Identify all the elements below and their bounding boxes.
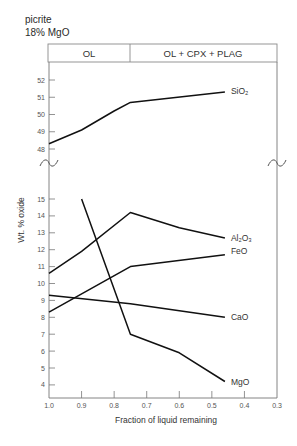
y-lower-tick-label: 6 xyxy=(41,348,45,355)
x-tick-label: 0.5 xyxy=(207,402,217,409)
phase-field-ol: OL xyxy=(83,48,96,59)
series-line-sio2 xyxy=(49,92,225,144)
y-axis-title: Wt. % oxide xyxy=(16,197,26,243)
y-ticks-lower: 456789101112131415 xyxy=(37,196,55,389)
y-lower-tick-label: 8 xyxy=(41,314,45,321)
x-tick-label: 0.4 xyxy=(240,402,250,409)
series-labels: SiO₂Al₂O₃FeOCaOMgO xyxy=(231,86,252,386)
series-label-al2o3: Al₂O₃ xyxy=(231,233,252,243)
y-upper-tick-label: 49 xyxy=(37,128,45,135)
x-axis-title: Fraction of liquid remaining xyxy=(115,415,217,425)
y-lower-tick-label: 4 xyxy=(41,381,45,388)
series-label-cao: CaO xyxy=(231,312,249,322)
series-label-sio2: SiO₂ xyxy=(231,86,248,96)
sample-label: picrite xyxy=(25,14,52,25)
series-label-feo: FeO xyxy=(231,246,248,256)
axes xyxy=(40,62,286,398)
series-label-mgo: MgO xyxy=(231,377,250,387)
series-line-feo xyxy=(49,255,225,312)
y-lower-tick-label: 5 xyxy=(41,365,45,372)
chart: picrite 18% MgO OL OL + CPX + PLAG 48495… xyxy=(0,0,297,446)
y-upper-tick-label: 50 xyxy=(37,111,45,118)
series-line-mgo xyxy=(82,199,225,382)
series-lines xyxy=(49,92,225,381)
y-lower-tick-label: 10 xyxy=(37,280,45,287)
series-line-cao xyxy=(49,295,225,317)
series-line-al2o3 xyxy=(49,213,225,274)
composition-label: 18% MgO xyxy=(25,27,70,38)
y-lower-tick-label: 11 xyxy=(38,263,45,270)
y-lower-tick-label: 15 xyxy=(37,196,45,203)
x-tick-label: 0.6 xyxy=(174,402,184,409)
y-lower-tick-label: 7 xyxy=(41,331,45,338)
x-tick-label: 1.0 xyxy=(44,402,54,409)
x-ticks: 1.00.90.80.70.60.50.40.3 xyxy=(44,391,282,409)
x-tick-label: 0.8 xyxy=(109,402,119,409)
phase-field-header: OL OL + CPX + PLAG xyxy=(48,44,277,62)
y-lower-tick-label: 13 xyxy=(37,229,45,236)
y-upper-tick-label: 52 xyxy=(37,77,45,84)
y-lower-tick-label: 9 xyxy=(41,297,45,304)
y-upper-tick-label: 51 xyxy=(37,94,45,101)
y-lower-tick-label: 14 xyxy=(37,212,45,219)
x-tick-label: 0.3 xyxy=(272,402,282,409)
y-ticks-upper: 4849505152 xyxy=(37,77,55,153)
x-tick-label: 0.7 xyxy=(142,402,152,409)
y-lower-tick-label: 12 xyxy=(37,246,45,253)
x-tick-label: 0.9 xyxy=(77,402,87,409)
y-upper-tick-label: 48 xyxy=(37,146,45,153)
phase-field-ol-cpx-plag: OL + CPX + PLAG xyxy=(164,48,243,59)
